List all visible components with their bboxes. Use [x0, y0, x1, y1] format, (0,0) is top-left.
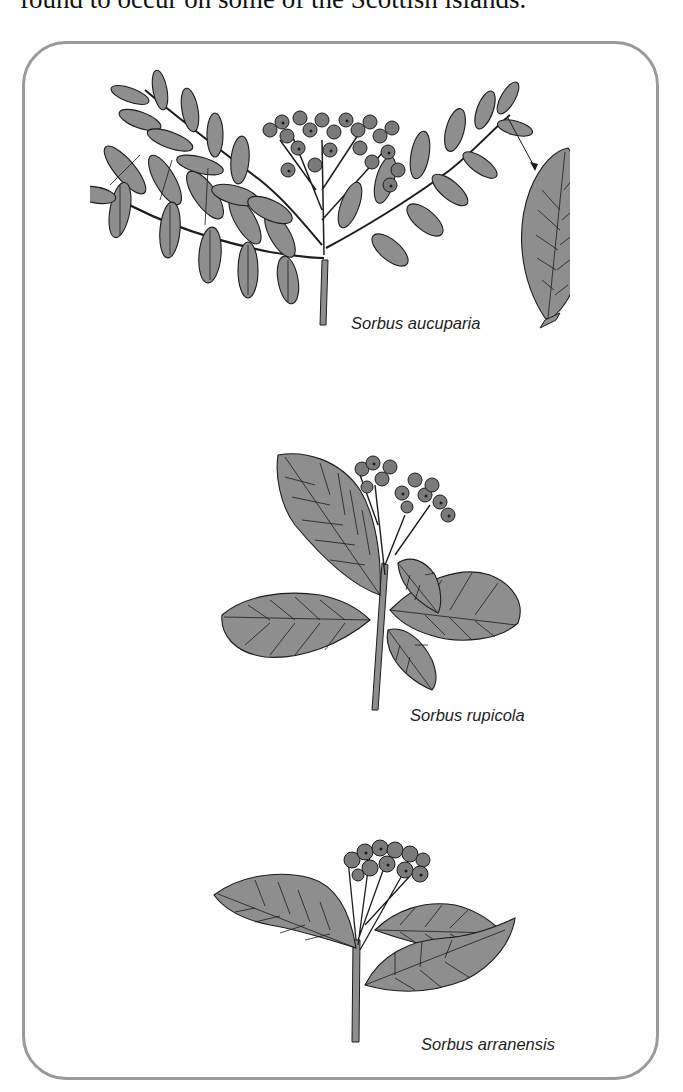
sorbus-rupicola-drawing — [210, 445, 530, 715]
sorbus-arranensis-drawing — [210, 830, 520, 1050]
sorbus-aucuparia-drawing — [90, 70, 570, 350]
illustration-sorbus-aucuparia — [90, 70, 570, 350]
caption-sorbus-aucuparia: Sorbus aucuparia — [351, 314, 480, 333]
caption-sorbus-arranensis: Sorbus arranensis — [421, 1035, 555, 1054]
illustration-sorbus-rupicola — [210, 445, 530, 715]
illustration-sorbus-arranensis — [210, 830, 520, 1050]
intro-text: found to occur on some of the Scottish i… — [20, 0, 680, 14]
caption-sorbus-rupicola: Sorbus rupicola — [410, 706, 525, 725]
